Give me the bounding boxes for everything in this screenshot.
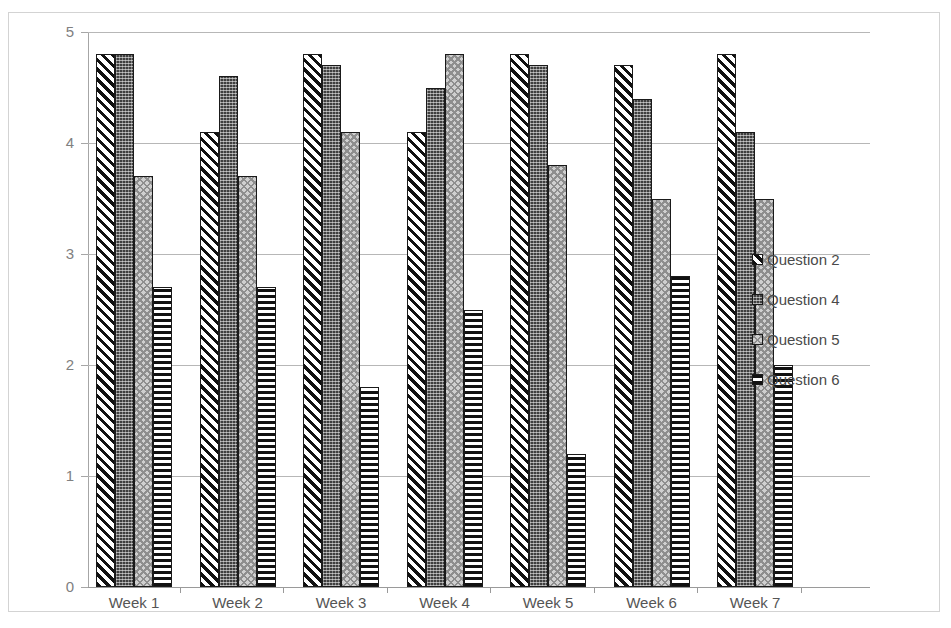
y-tick-label-4: 4: [44, 135, 74, 150]
bar: [548, 165, 567, 587]
x-tick-mark: [594, 587, 595, 593]
horizontal-stripes-swatch-icon: [752, 374, 763, 385]
y-tick-label-1: 1: [44, 468, 74, 483]
y-tick-mark-3: [81, 254, 88, 255]
y-tick-label-0: 0: [44, 579, 74, 594]
x-tick-mark: [180, 587, 181, 593]
x-tick-label-week-7: Week 7: [700, 594, 810, 612]
legend-label: Question 2: [767, 252, 840, 267]
x-tick-label-week-6: Week 6: [597, 594, 707, 612]
bar: [633, 99, 652, 587]
x-axis-line: [88, 587, 870, 588]
bar: [115, 54, 134, 587]
bar-group: [200, 32, 276, 587]
light-checker-swatch-icon: [752, 334, 763, 345]
legend-item-question-6[interactable]: Question 6: [752, 372, 922, 412]
bar: [717, 54, 736, 587]
bar: [445, 54, 464, 587]
bar: [567, 454, 586, 587]
x-tick-mark: [490, 587, 491, 593]
y-axis-tick-labels: 543210: [30, 0, 74, 628]
bar: [360, 387, 379, 587]
bar: [464, 310, 483, 588]
bar: [153, 287, 172, 587]
x-tick-label-week-1: Week 1: [79, 594, 189, 612]
y-tick-label-2: 2: [44, 357, 74, 372]
x-tick-mark: [387, 587, 388, 593]
bar: [671, 276, 690, 587]
x-tick-mark: [283, 587, 284, 593]
bar-group: [96, 32, 172, 587]
legend-item-question-2[interactable]: Question 2: [752, 252, 922, 292]
y-tick-label-5: 5: [44, 24, 74, 39]
legend-label: Question 6: [767, 372, 840, 387]
y-tick-mark-0: [81, 587, 88, 588]
bar-group: [303, 32, 379, 587]
bar: [426, 88, 445, 588]
bar: [407, 132, 426, 587]
x-tick-label-week-2: Week 2: [183, 594, 293, 612]
legend-label: Question 4: [767, 292, 840, 307]
y-tick-mark-1: [81, 476, 88, 477]
x-tick-mark: [697, 587, 698, 593]
chart-figure: 543210 Week 1Week 2Week 3Week 4Week 5Wee…: [0, 0, 951, 628]
bar-group: [614, 32, 690, 587]
bar: [303, 54, 322, 587]
bar-group: [510, 32, 586, 587]
bar: [341, 132, 360, 587]
bar: [614, 65, 633, 587]
chart-legend: Question 2Question 4Question 5Question 6: [752, 252, 922, 412]
bar: [134, 176, 153, 587]
x-tick-label-week-4: Week 4: [390, 594, 500, 612]
x-tick-label-week-3: Week 3: [286, 594, 396, 612]
legend-item-question-5[interactable]: Question 5: [752, 332, 922, 372]
bar-group: [407, 32, 483, 587]
bar: [96, 54, 115, 587]
bar: [200, 132, 219, 587]
dark-grid-swatch-icon: [752, 294, 763, 305]
bar: [322, 65, 341, 587]
x-tick-label-week-5: Week 5: [493, 594, 603, 612]
bar: [529, 65, 548, 587]
bar: [257, 287, 276, 587]
legend-label: Question 5: [767, 332, 840, 347]
bar: [510, 54, 529, 587]
y-tick-mark-2: [81, 365, 88, 366]
diagonal-stripes-swatch-icon: [752, 254, 763, 265]
y-tick-label-3: 3: [44, 246, 74, 261]
bar: [219, 76, 238, 587]
y-tick-mark-4: [81, 143, 88, 144]
legend-item-question-4[interactable]: Question 4: [752, 292, 922, 332]
bar: [652, 199, 671, 588]
y-tick-mark-5: [81, 32, 88, 33]
x-tick-mark: [801, 587, 802, 593]
bar: [238, 176, 257, 587]
